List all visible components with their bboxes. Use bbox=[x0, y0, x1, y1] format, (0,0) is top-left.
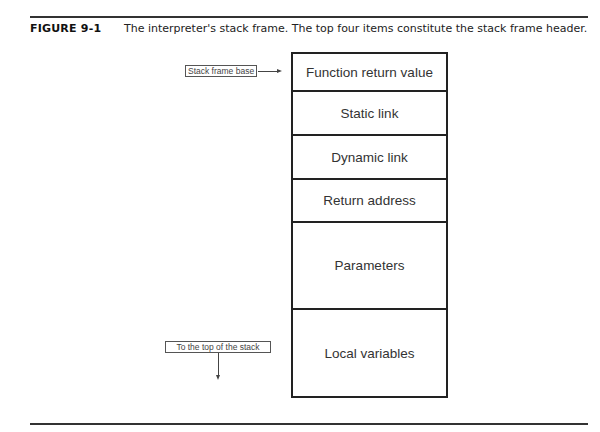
cell-function-return-value: Function return value bbox=[293, 54, 446, 92]
cell-dynamic-link: Dynamic link bbox=[293, 136, 446, 180]
arrow-down-icon bbox=[216, 375, 220, 380]
base-arrow-line bbox=[258, 71, 277, 72]
figure-number: FIGURE 9-1 bbox=[30, 22, 101, 35]
cell-label: Dynamic link bbox=[331, 150, 408, 165]
top-arrow-line bbox=[218, 353, 219, 375]
top-of-stack-label: To the top of the stack bbox=[165, 341, 271, 353]
cell-static-link: Static link bbox=[293, 92, 446, 136]
cell-label: Function return value bbox=[306, 65, 433, 80]
bottom-rule bbox=[30, 423, 588, 425]
top-rule bbox=[30, 16, 588, 18]
cell-label: Parameters bbox=[335, 258, 405, 273]
cell-label: Return address bbox=[323, 193, 415, 208]
cell-parameters: Parameters bbox=[293, 223, 446, 310]
cell-local-variables: Local variables bbox=[293, 310, 446, 396]
stack-frame-base-label: Stack frame base bbox=[185, 65, 257, 77]
cell-label: Local variables bbox=[324, 346, 414, 361]
cell-label: Static link bbox=[341, 106, 399, 121]
cell-return-address: Return address bbox=[293, 180, 446, 223]
arrow-right-icon bbox=[277, 69, 282, 73]
stack-frame-diagram: Function return value Static link Dynami… bbox=[291, 52, 448, 398]
figure-caption: The interpreter's stack frame. The top f… bbox=[124, 22, 587, 35]
